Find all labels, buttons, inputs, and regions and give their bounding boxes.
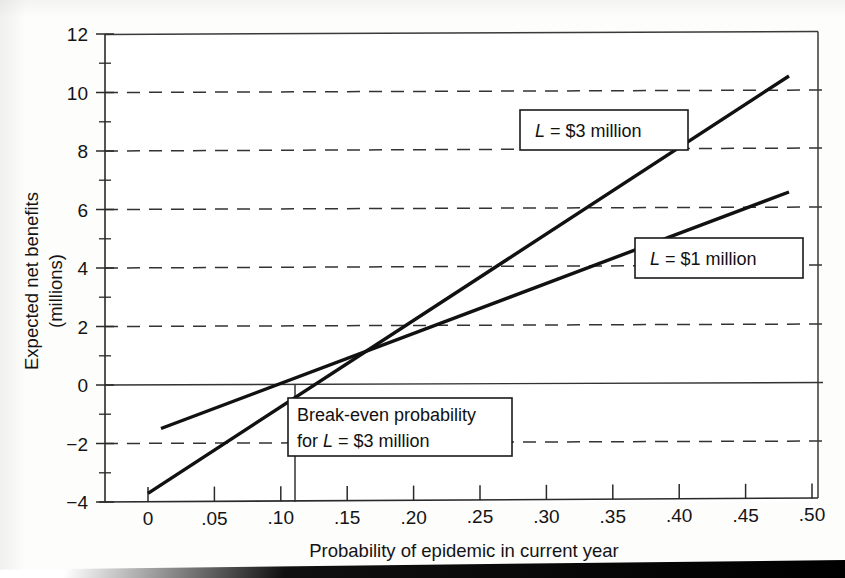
callout-3-million-rest: = $3 million (545, 121, 642, 141)
y-tick-label: 10 (67, 83, 88, 104)
callout-breakeven: Break-even probability for L = $3 millio… (288, 398, 512, 456)
x-tick-label: .05 (201, 508, 227, 529)
callout-3-million: L = $3 million (520, 110, 688, 150)
y-tick-label: −4 (66, 492, 88, 513)
callout-1-million: L = $1 million (635, 238, 803, 278)
x-tick-label: .45 (732, 505, 758, 526)
callout-1-million-rest: = $1 million (660, 249, 757, 269)
x-tick-label: .50 (799, 504, 825, 525)
x-tick-label: 0 (143, 508, 154, 529)
callout-breakeven-line1: Break-even probability (297, 405, 476, 425)
callout-breakeven-line2: for L = $3 million (297, 431, 430, 451)
callout-3-million-label: L = $3 million (535, 121, 642, 141)
x-tick-label: .30 (533, 506, 559, 527)
x-tick-label: .20 (400, 507, 426, 528)
callout-breakeven-prefix: for (297, 431, 323, 451)
x-tick-label: .15 (334, 507, 360, 528)
y-axis-title: Expected net benefits (millions) (21, 192, 66, 370)
y-axis-title-line1: Expected net benefits (21, 192, 42, 370)
x-tick-label: .25 (467, 506, 493, 527)
y-axis-tick-labels: 12 10 8 6 4 2 0 −2 −4 (66, 24, 88, 513)
y-tick-label: −2 (66, 434, 88, 455)
x-tick-label: .40 (666, 505, 692, 526)
y-tick-label: 6 (77, 200, 88, 221)
x-axis-tick-labels: 0 .05 .10 .15 .20 .25 .30 .35 .40 .45 .5… (143, 504, 826, 529)
x-tick-label: .35 (600, 506, 626, 527)
y-tick-label: 12 (67, 24, 88, 45)
callout-breakeven-symbol: L (323, 431, 333, 451)
callout-1-million-symbol: L (650, 249, 660, 269)
x-axis-title: Probability of epidemic in current year (309, 540, 619, 561)
y-tick-label: 4 (77, 258, 88, 279)
y-axis-title-line2: (millions) (45, 254, 66, 328)
chart-page: 12 10 8 6 4 2 0 −2 −4 0 .05 (0, 0, 845, 578)
expected-net-benefits-chart: 12 10 8 6 4 2 0 −2 −4 0 .05 (0, 0, 845, 578)
callout-breakeven-suffix: = $3 million (333, 431, 430, 451)
callout-1-million-label: L = $1 million (650, 249, 757, 269)
y-tick-label: 0 (77, 375, 88, 396)
y-tick-label: 2 (77, 317, 88, 338)
callout-3-million-symbol: L (535, 121, 545, 141)
y-tick-label: 8 (77, 141, 88, 162)
x-tick-label: .10 (268, 507, 294, 528)
